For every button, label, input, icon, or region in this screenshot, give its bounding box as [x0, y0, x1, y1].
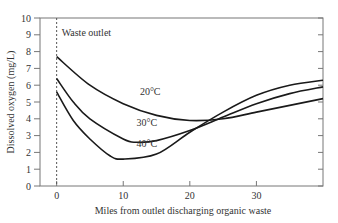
data-curves	[57, 57, 323, 160]
y-tick-label: 4	[26, 113, 31, 124]
curve-20c	[57, 57, 323, 121]
y-tick-label: 2	[26, 147, 31, 158]
series-labels: 20°C30°C40°C	[137, 86, 161, 149]
y-tick-label: 6	[26, 80, 31, 91]
x-tick-label: 30	[251, 190, 261, 201]
y-tick-label: 3	[26, 130, 31, 141]
y-tick-label: 5	[26, 97, 31, 108]
x-tick-label: 0	[54, 190, 59, 201]
x-axis-ticks: 0102030	[54, 181, 261, 201]
y-tick-label: 10	[21, 13, 31, 24]
y-tick-label: 9	[26, 29, 31, 40]
x-tick-label: 20	[185, 190, 195, 201]
series-label: 20°C	[140, 86, 161, 97]
plot-frame	[40, 18, 323, 186]
y-tick-label: 0	[26, 181, 31, 192]
y-axis-ticks: 012345678910	[21, 13, 323, 192]
dissolved-oxygen-chart: 012345678910 0102030 Waste outlet 20°C30…	[0, 0, 338, 223]
curve-40c	[57, 80, 323, 159]
y-axis-label: Dissolved oxygen (mg/L)	[5, 51, 17, 154]
y-tick-label: 8	[26, 46, 31, 57]
y-tick-label: 7	[26, 63, 31, 74]
x-tick-label: 10	[118, 190, 128, 201]
y-tick-label: 1	[26, 164, 31, 175]
series-label: 30°C	[137, 117, 158, 128]
x-axis-label: Miles from outlet discharging organic wa…	[95, 205, 272, 216]
waste-outlet-label: Waste outlet	[62, 27, 112, 38]
series-label: 40°C	[137, 138, 158, 149]
